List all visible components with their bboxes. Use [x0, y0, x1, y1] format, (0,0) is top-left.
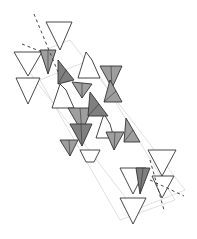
polyhedra-figure [0, 0, 197, 239]
open-polyhedra [14, 22, 176, 224]
shaded-tetrahedron [136, 168, 150, 194]
open-tetrahedron [46, 22, 72, 50]
open-tetrahedron [52, 84, 74, 108]
open-tetrahedron [16, 78, 40, 104]
dashed-axis-line [22, 44, 42, 52]
open-tetrahedron [14, 52, 42, 76]
open-tetrahedron [120, 198, 146, 224]
crystal-structure-diagram [0, 0, 197, 239]
open-tetrahedron [78, 52, 100, 78]
